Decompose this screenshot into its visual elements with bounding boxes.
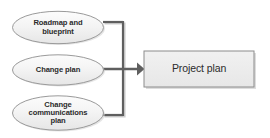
connector-arrowhead-icon xyxy=(137,63,145,76)
node-change-communications-plan[interactable] xyxy=(13,96,106,132)
diagram-graphics xyxy=(0,0,270,138)
box-shape xyxy=(144,51,254,87)
ellipse-shape xyxy=(13,11,104,43)
node-change-plan[interactable] xyxy=(13,55,106,87)
ellipse-shape xyxy=(13,96,104,130)
diagram-canvas: Roadmap and blueprint Change plan Change… xyxy=(0,0,270,138)
node-roadmap-and-blueprint[interactable] xyxy=(13,11,106,45)
connector-group xyxy=(103,21,145,117)
ellipse-shape xyxy=(13,55,104,85)
node-project-plan[interactable] xyxy=(144,51,256,89)
